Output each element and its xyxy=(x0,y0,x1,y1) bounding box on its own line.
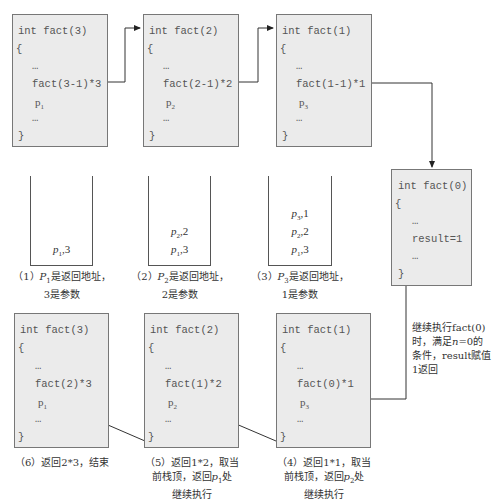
stack-entry: p1,3 xyxy=(31,243,92,258)
close-brace: } xyxy=(149,130,155,142)
stack-entry: p1,3 xyxy=(149,243,210,258)
resolved-call: fact(1)*2 xyxy=(165,378,222,390)
ellipsis: … xyxy=(296,60,302,72)
ellipsis: … xyxy=(297,413,303,425)
stack-caption-3: （3）P3是返回地址， 1是参数 xyxy=(250,270,350,302)
recursive-call: fact(1-1)*1 xyxy=(296,78,365,90)
recursive-call: fact(2-1)*2 xyxy=(163,78,232,90)
return-address: p3 xyxy=(300,396,309,411)
open-brace: { xyxy=(395,198,401,210)
stack-entry: p1,3 xyxy=(269,243,331,258)
frame-fact-3-return: int fact(3) { … fact(2)*3 p1 … } xyxy=(14,313,109,448)
stack-caption-1: （1）P1是返回地址， 3是参数 xyxy=(12,270,112,302)
frame-header: int fact(0) xyxy=(398,180,467,192)
stack-state-3: p3,1 p2,2 p1,3 xyxy=(268,176,332,266)
frame-fact-2-return: int fact(2) { … fact(1)*2 p2 … } xyxy=(144,313,239,448)
frame-header: int fact(3) xyxy=(20,324,89,336)
base-case-statement: result=1 xyxy=(412,233,462,245)
stack-entry: p2,2 xyxy=(269,225,331,240)
ellipsis: … xyxy=(296,112,302,124)
ellipsis: … xyxy=(297,360,303,372)
ellipsis: … xyxy=(165,413,171,425)
frame-header: int fact(2) xyxy=(150,324,219,336)
return-address: p2 xyxy=(166,96,175,111)
open-brace: { xyxy=(18,342,24,354)
ellipsis: … xyxy=(163,60,169,72)
close-brace: } xyxy=(18,130,24,142)
ellipsis: … xyxy=(165,360,171,372)
stack-entry: p3,1 xyxy=(269,207,331,222)
stack-state-2: p2,2 p1,3 xyxy=(148,176,211,266)
resolved-call: fact(0)*1 xyxy=(297,378,354,390)
return-address: p2 xyxy=(168,396,177,411)
ellipsis: … xyxy=(163,112,169,124)
ellipsis: … xyxy=(412,215,418,227)
frame-fact-0: int fact(0) { … result=1 … } xyxy=(391,169,472,286)
frame-fact-2: int fact(2) { … fact(2-1)*2 p2 … } xyxy=(143,14,239,147)
frame-fact-3: int fact(3) { … fact(3-1)*3 p1 … } xyxy=(12,14,108,147)
stack-entry: p2,2 xyxy=(149,225,210,240)
ellipsis: … xyxy=(35,413,41,425)
ellipsis: … xyxy=(35,360,41,372)
open-brace: { xyxy=(280,43,286,55)
open-brace: { xyxy=(280,342,286,354)
ellipsis: … xyxy=(412,250,418,262)
close-brace: } xyxy=(18,431,24,443)
close-brace: } xyxy=(148,431,154,443)
step-caption-6: （6）返回2*3，结束 xyxy=(12,456,112,470)
return-note: 继续执行fact(0) 时，满足n=0的 条件，result赋值 1返回 xyxy=(412,321,494,377)
open-brace: { xyxy=(148,342,154,354)
close-brace: } xyxy=(280,431,286,443)
frame-header: int fact(2) xyxy=(149,25,218,37)
close-brace: } xyxy=(282,130,288,142)
frame-fact-1-return: int fact(1) { … fact(0)*1 p3 … } xyxy=(276,313,371,448)
ellipsis: … xyxy=(32,60,38,72)
return-address: p1 xyxy=(35,96,44,111)
frame-fact-1: int fact(1) { … fact(1-1)*1 p3 … } xyxy=(276,14,372,147)
return-address: p1 xyxy=(38,396,47,411)
frame-header: int fact(3) xyxy=(18,25,87,37)
open-brace: { xyxy=(16,43,22,55)
resolved-call: fact(2)*3 xyxy=(35,378,92,390)
open-brace: { xyxy=(147,43,153,55)
step-caption-4: （4）返回1*1，取当 前栈顶，返回p2处 继续执行 xyxy=(272,456,376,500)
recursive-call: fact(3-1)*3 xyxy=(32,78,101,90)
return-address: p3 xyxy=(299,96,308,111)
ellipsis: … xyxy=(32,112,38,124)
stack-caption-2: （2）P2是返回地址， 2是参数 xyxy=(130,270,230,302)
close-brace: } xyxy=(398,268,404,280)
frame-header: int fact(1) xyxy=(282,25,351,37)
step-caption-5: （5）返回1*2，取当 前栈顶，返回p1处 继续执行 xyxy=(140,456,244,500)
frame-header: int fact(1) xyxy=(282,324,351,336)
stack-state-1: p1,3 xyxy=(30,176,93,266)
